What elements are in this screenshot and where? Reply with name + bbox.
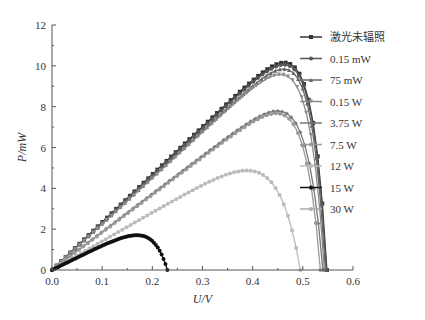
pv-power-voltage-chart: 0.00.10.20.30.40.50.6024681012U/VP/mW 激光… (0, 0, 425, 320)
legend-label: 3.75 W (330, 117, 363, 129)
x-tick-label: 0.6 (346, 275, 360, 287)
legend-label: 15 W (330, 182, 355, 194)
chart-canvas: 0.00.10.20.30.40.50.6024681012U/VP/mW 激光… (0, 0, 425, 320)
y-tick-label: 8 (41, 101, 47, 113)
legend-item: 75 mW (300, 74, 363, 86)
x-tick-label: 0.2 (145, 275, 159, 287)
x-tick-label: 0.1 (95, 275, 109, 287)
y-tick-label: 0 (41, 264, 47, 276)
y-tick-label: 12 (35, 19, 46, 31)
x-axis-label: U/V (193, 292, 214, 306)
legend-item: 0.15 mW (300, 53, 372, 65)
x-tick-label: 0.3 (196, 275, 210, 287)
legend-label: 75 mW (330, 74, 363, 86)
legend-label: 7.5 W (330, 139, 357, 151)
series-7 (50, 233, 169, 272)
y-tick-label: 2 (41, 223, 47, 235)
legend-label: 激光未辐照 (330, 30, 385, 43)
y-axis-label: P/mW (15, 132, 29, 163)
plot-area (50, 61, 329, 272)
legend-label: 0.15 W (330, 96, 363, 108)
x-tick-label: 0.0 (45, 275, 59, 287)
legend-item: 7.5 W (300, 139, 357, 151)
legend-label: 30 W (330, 203, 355, 215)
series-3 (50, 73, 326, 272)
y-tick-label: 4 (41, 182, 47, 194)
y-tick-label: 6 (41, 142, 47, 154)
legend-item: 30 W (300, 203, 355, 215)
y-tick-label: 10 (35, 60, 47, 72)
legend: 激光未辐照0.15 mW75 mW0.15 W3.75 W7.5 W12 W15… (300, 30, 385, 215)
x-tick-label: 0.5 (296, 275, 310, 287)
legend-item: 激光未辐照 (300, 30, 385, 43)
legend-label: 0.15 mW (330, 53, 372, 65)
series-6 (50, 169, 302, 272)
legend-item: 15 W (300, 182, 355, 194)
legend-label: 12 W (330, 160, 355, 172)
x-tick-label: 0.4 (246, 275, 260, 287)
